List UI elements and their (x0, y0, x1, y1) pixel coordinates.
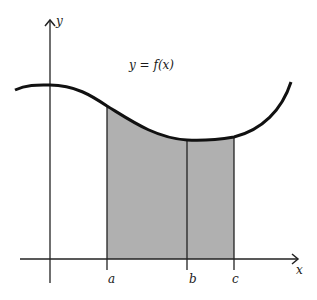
diagram-canvas: y x y = f(x) a b c (0, 0, 317, 300)
y-axis-label: y (55, 14, 63, 28)
x-axis-label: x (296, 263, 303, 277)
shaded-area-region (107, 106, 234, 259)
tick-label-b: b (189, 272, 197, 286)
tick-label-a: a (108, 272, 115, 286)
function-curve (15, 82, 291, 140)
area-under-curve-diagram: y x y = f(x) a b c (0, 0, 317, 300)
tick-label-c: c (232, 272, 239, 286)
curve-label: y = f(x) (128, 58, 174, 72)
